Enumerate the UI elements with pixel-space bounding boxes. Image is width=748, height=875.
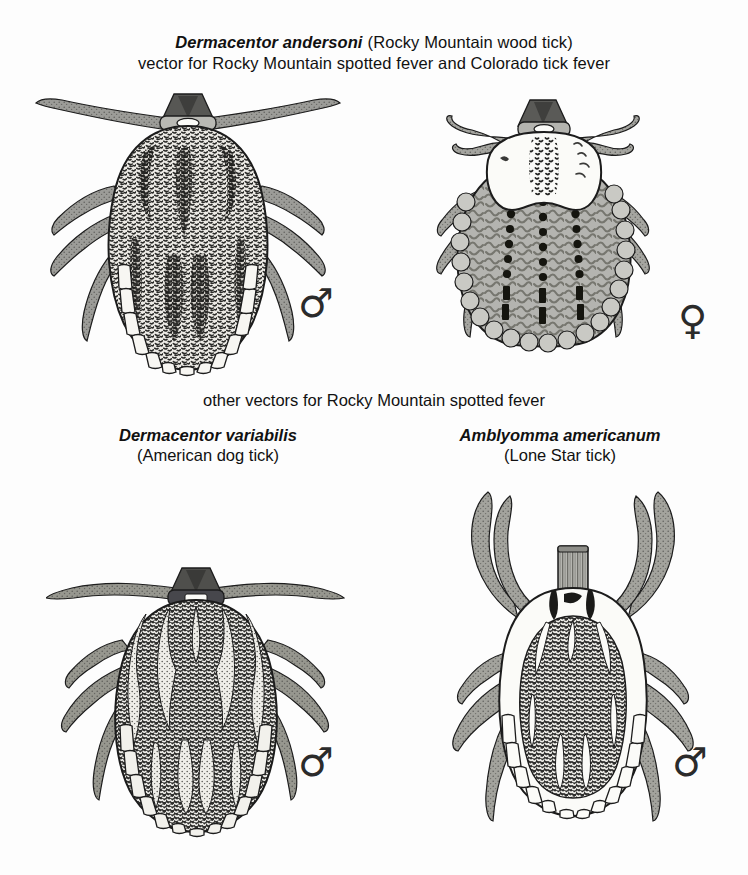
americanum-male-capitulum — [558, 546, 588, 592]
title-line-1: Dermacentor andersoni(Rocky Mountain woo… — [0, 33, 748, 52]
caption-amblyomma-americanum: Amblyomma americanum (Lone Star tick) — [380, 426, 740, 466]
plate-title: Dermacentor andersoni(Rocky Mountain woo… — [0, 33, 748, 74]
andersoni-male-capitulum — [160, 94, 216, 130]
andersoni-male-body — [109, 126, 268, 376]
andersoni-female-body — [451, 132, 635, 352]
title-line-2: vector for Rocky Mountain spotted fever … — [0, 54, 748, 73]
americanum-male-body — [499, 588, 646, 819]
section-heading: other vectors for Rocky Mountain spotted… — [0, 391, 748, 410]
figure-dermacentor-andersoni-male — [28, 86, 348, 386]
title-common-name: (Rocky Mountain wood tick) — [368, 33, 573, 51]
caption-species-name: Dermacentor variabilis — [119, 426, 297, 444]
male-symbol: ♂ — [298, 742, 334, 782]
figure-dermacentor-andersoni-female — [404, 96, 684, 386]
variabilis-male-body — [115, 600, 277, 837]
female-symbol: ♀ — [678, 300, 707, 340]
male-symbol: ♂ — [672, 742, 708, 782]
figure-dermacentor-variabilis-male — [46, 530, 346, 840]
caption-dermacentor-variabilis: Dermacentor variabilis (American dog tic… — [28, 426, 388, 466]
title-species-name: Dermacentor andersoni — [175, 33, 362, 51]
male-symbol: ♂ — [298, 283, 334, 323]
caption-common-name: (American dog tick) — [28, 446, 388, 465]
andersoni-female-capitulum — [518, 100, 570, 136]
caption-species-name: Amblyomma americanum — [460, 426, 661, 444]
caption-common-name: (Lone Star tick) — [380, 446, 740, 465]
tick-vectors-plate: Dermacentor andersoni(Rocky Mountain woo… — [0, 0, 748, 875]
